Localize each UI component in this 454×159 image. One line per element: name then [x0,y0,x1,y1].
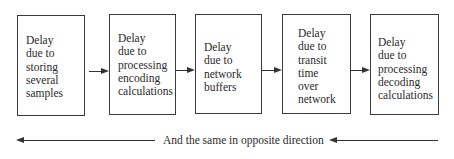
return-arrow-right [336,140,438,141]
arrowhead-right-icon [274,67,282,73]
arrow-storing-to-encoding [89,71,101,72]
arrowhead-right-icon [101,68,109,74]
box-transit-delay: Delay due to transit time over network [282,14,351,114]
box-encoding-label: Delay due to processing encoding calcula… [118,32,173,98]
return-caption: And the same in opposite direction [163,134,324,146]
return-arrow-left [23,140,155,141]
box-decoding-delay: Delay due to processing decoding calcula… [370,14,439,115]
box-storing-delay: Delay due to storing several samples [17,15,85,116]
arrow-transit-to-decoding [351,70,362,71]
box-network-buffers-label: Delay due to network buffers [204,41,242,94]
box-storing-label: Delay due to storing several samples [26,34,63,100]
arrowhead-right-icon [187,67,195,73]
arrow-buffers-to-transit [262,70,274,71]
arrow-encoding-to-buffers [176,70,187,71]
arrowhead-right-icon [362,67,370,73]
box-transit-label: Delay due to transit time over network [298,27,336,107]
box-encoding-delay: Delay due to processing encoding calcula… [109,14,176,115]
box-network-buffers-delay: Delay due to network buffers [195,14,262,114]
box-decoding-label: Delay due to processing decoding calcula… [378,36,433,102]
